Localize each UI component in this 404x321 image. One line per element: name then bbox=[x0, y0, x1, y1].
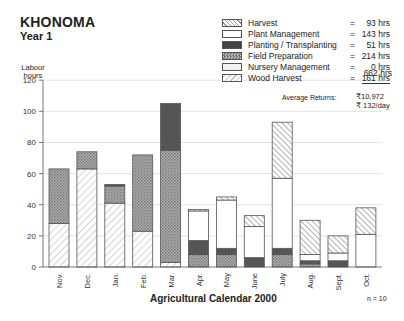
x-axis-title: Agricultural Calendar 2000 bbox=[150, 293, 277, 304]
bar-segment bbox=[189, 241, 209, 255]
y-tick-label: 40 bbox=[27, 201, 36, 210]
legend-label: Wood Harvest bbox=[248, 73, 302, 84]
bar-segment bbox=[216, 248, 236, 254]
bar-feb bbox=[133, 155, 153, 267]
bar-segment bbox=[300, 255, 320, 261]
bar-apr bbox=[189, 209, 209, 267]
legend-value: 93 hrs bbox=[366, 18, 390, 29]
legend-item-plant: Plant Management=143 hrs bbox=[222, 29, 402, 40]
legend-total: 662 hrs bbox=[364, 68, 392, 78]
legend-swatch-nursery bbox=[222, 63, 242, 71]
bars bbox=[49, 104, 376, 267]
x-tick-label: Sept. bbox=[334, 273, 343, 291]
bar-segment bbox=[105, 186, 125, 203]
bar-segment bbox=[216, 200, 236, 248]
bar-segment bbox=[189, 255, 209, 267]
bar-july bbox=[272, 122, 292, 267]
bar-segment bbox=[272, 248, 292, 254]
x-tick-label: Nov. bbox=[55, 273, 64, 288]
legend-equals: = bbox=[350, 40, 355, 51]
bar-segment bbox=[244, 216, 264, 227]
average-returns-daily: ₹ 132/day bbox=[356, 101, 390, 110]
y-tick-label: 0 bbox=[32, 263, 37, 272]
bar-segment bbox=[328, 261, 348, 267]
legend-label: Field Preparation bbox=[248, 51, 313, 62]
y-tick-label: 120 bbox=[23, 76, 37, 85]
legend-equals: = bbox=[350, 51, 355, 62]
bar-segment bbox=[300, 261, 320, 264]
legend-swatch-plant bbox=[222, 30, 242, 38]
bar-nov bbox=[49, 169, 69, 267]
bar-may bbox=[216, 197, 236, 267]
bar-segment bbox=[49, 223, 69, 267]
x-tick-label: Oct. bbox=[362, 273, 371, 287]
legend-value: 214 hrs bbox=[362, 51, 390, 62]
x-tick-label: June bbox=[250, 273, 259, 289]
bar-segment bbox=[133, 231, 153, 267]
bar-aug bbox=[300, 220, 320, 267]
legend-swatch-planting bbox=[222, 41, 242, 49]
x-tick-label: Mar. bbox=[167, 273, 176, 288]
legend-swatch-wood bbox=[222, 74, 242, 82]
legend-label: Planting / Transplanting bbox=[248, 40, 337, 51]
bar-mar bbox=[161, 104, 181, 267]
legend-equals: = bbox=[350, 29, 355, 40]
bar-segment bbox=[328, 253, 348, 261]
y-tick-label: 60 bbox=[27, 170, 36, 179]
x-tick-label: May bbox=[222, 273, 231, 287]
sample-size-note: n = 10 bbox=[367, 295, 387, 302]
bar-june bbox=[244, 216, 264, 267]
average-returns-label: Average Returns: bbox=[282, 94, 336, 101]
legend-item-planting: Planting / Transplanting=51 hrs bbox=[222, 40, 402, 51]
legend-equals: = bbox=[350, 73, 355, 84]
bar-segment bbox=[272, 122, 292, 178]
legend-label: Plant Management bbox=[248, 29, 319, 40]
bar-segment bbox=[77, 152, 97, 169]
y-tick-label: 80 bbox=[27, 138, 36, 147]
bar-segment bbox=[77, 169, 97, 267]
legend-label: Harvest bbox=[248, 18, 277, 29]
legend-swatch-harvest bbox=[222, 19, 242, 27]
bar-segment bbox=[49, 169, 69, 223]
bar-segment bbox=[105, 184, 125, 186]
bar-dec bbox=[77, 152, 97, 267]
bar-segment bbox=[161, 104, 181, 151]
bar-oct bbox=[356, 208, 376, 267]
y-tick-label: 100 bbox=[23, 107, 37, 116]
bar-segment bbox=[300, 220, 320, 254]
average-returns-total: ₹10,972 bbox=[356, 92, 384, 101]
legend-equals: = bbox=[350, 18, 355, 29]
legend-equals: = bbox=[350, 62, 355, 73]
y-tick-label: 20 bbox=[27, 232, 36, 241]
bar-segment bbox=[161, 150, 181, 262]
legend-value: 51 hrs bbox=[366, 40, 390, 51]
x-tick-label: Dec. bbox=[83, 273, 92, 288]
legend-item-field: Field Preparation=214 hrs bbox=[222, 51, 402, 62]
bar-segment bbox=[216, 255, 236, 267]
bar-segment bbox=[189, 209, 209, 211]
x-tick-label: Apr. bbox=[195, 273, 204, 286]
x-tick-label: Aug. bbox=[306, 273, 315, 288]
bar-sept bbox=[328, 236, 348, 267]
bar-segment bbox=[189, 211, 209, 241]
legend-item-harvest: Harvest=93 hrs bbox=[222, 18, 402, 29]
bar-segment bbox=[272, 255, 292, 267]
bar-segment bbox=[216, 197, 236, 200]
legend-swatch-field bbox=[222, 52, 242, 60]
bar-segment bbox=[161, 262, 181, 267]
bar-segment bbox=[244, 258, 264, 267]
bar-segment bbox=[272, 178, 292, 248]
x-tick-label: Jan. bbox=[111, 273, 120, 287]
bar-segment bbox=[356, 234, 376, 267]
x-tick-label: Feb. bbox=[139, 273, 148, 288]
bar-segment bbox=[328, 236, 348, 253]
bar-segment bbox=[105, 203, 125, 267]
bar-segment bbox=[356, 208, 376, 234]
bar-segment bbox=[244, 227, 264, 258]
legend-value: 143 hrs bbox=[362, 29, 390, 40]
x-tick-label: July bbox=[278, 273, 287, 287]
bar-segment bbox=[133, 155, 153, 231]
bar-jan bbox=[105, 184, 125, 267]
bar-segment bbox=[300, 264, 320, 267]
legend-label: Nursery Management bbox=[248, 62, 330, 73]
